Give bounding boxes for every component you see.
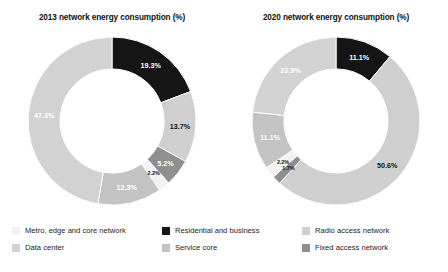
legend-label-service-core: Service core <box>175 244 217 252</box>
donut-slice-label: 47.3% <box>34 111 55 120</box>
legend-label-radio-access: Radio access network <box>315 227 389 235</box>
donut-slice-label: 11.1% <box>349 53 370 62</box>
legend-swatch-residential-business <box>162 227 170 235</box>
donut-chart-2020: 11.1%50.6%1.7%2.2%11.1%23.3% <box>247 32 425 210</box>
legend-label-metro-edge-core: Metro, edge and core network <box>25 227 126 235</box>
donut-slice-label: 13.7% <box>170 122 191 131</box>
chart-title-2020: 2020 network energy consumption (%) <box>224 13 448 22</box>
chart-legend: Metro, edge and core network Residential… <box>0 222 448 272</box>
donut-slice-label: 19.3% <box>141 61 162 70</box>
charts-row: 2013 network energy consumption (%) 19.3… <box>0 0 448 218</box>
legend-swatch-metro-edge-core <box>12 227 20 235</box>
chart-panel-2013: 2013 network energy consumption (%) 19.3… <box>0 0 224 218</box>
chart-panel-2020: 2020 network energy consumption (%) 11.1… <box>224 0 448 218</box>
legend-label-data-center: Data center <box>25 244 64 252</box>
donut-svg-2013: 19.3%13.7%5.2%2.2%12.3%47.3% <box>23 32 201 210</box>
donut-chart-2013: 19.3%13.7%5.2%2.2%12.3%47.3% <box>23 32 201 210</box>
chart-title-2013: 2013 network energy consumption (%) <box>0 13 224 22</box>
legend-swatch-fixed-access <box>302 244 310 252</box>
figure-root: 2013 network energy consumption (%) 19.3… <box>0 0 448 272</box>
donut-slice <box>28 37 112 204</box>
legend-item-fixed-access: Fixed access network <box>302 239 448 256</box>
legend-swatch-radio-access <box>302 227 310 235</box>
donut-slice-label: 1.7% <box>282 165 294 171</box>
donut-svg-2020: 11.1%50.6%1.7%2.2%11.1%23.3% <box>247 32 425 210</box>
donut-slice-label: 11.1% <box>260 133 281 142</box>
legend-item-service-core: Service core <box>162 239 302 256</box>
donut-slice <box>112 37 191 103</box>
donut-slice <box>252 37 336 115</box>
donut-slice-label: 50.6% <box>377 161 398 170</box>
donut-slice-label: 2.2% <box>277 159 289 165</box>
legend-label-residential-business: Residential and business <box>175 227 259 235</box>
donut-slice-label: 2.2% <box>148 170 160 176</box>
legend-item-radio-access: Radio access network <box>302 222 448 239</box>
legend-label-fixed-access: Fixed access network <box>315 244 388 252</box>
legend-swatch-data-center <box>12 244 20 252</box>
legend-swatch-service-core <box>162 244 170 252</box>
donut-slice-label: 23.3% <box>280 66 301 75</box>
donut-slice-label: 12.3% <box>116 183 137 192</box>
legend-item-data-center: Data center <box>12 239 162 256</box>
donut-slice-label: 5.2% <box>157 159 174 168</box>
legend-item-residential-business: Residential and business <box>162 222 302 239</box>
legend-item-metro-edge-core: Metro, edge and core network <box>12 222 162 239</box>
